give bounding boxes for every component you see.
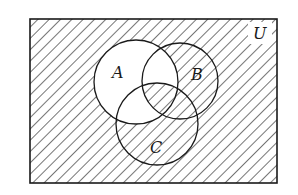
set-c-label: C — [150, 138, 162, 157]
set-a-label: A — [110, 63, 124, 82]
universe-label: U — [253, 24, 267, 43]
venn-diagram: A B C U — [0, 0, 298, 195]
set-b-label: B — [190, 65, 203, 84]
